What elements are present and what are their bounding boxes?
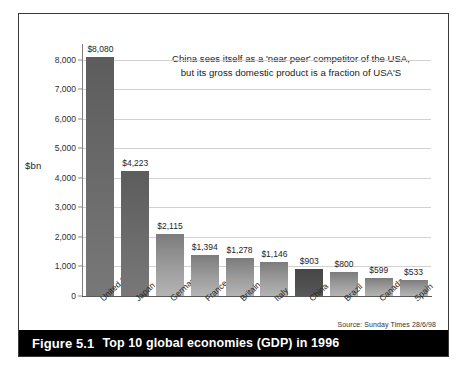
bar-slot: $1,394France — [191, 48, 219, 296]
y-axis-unit-label: $bn — [25, 160, 41, 171]
y-axis-tick-mark — [78, 236, 82, 237]
bar-japan[interactable] — [121, 171, 149, 296]
chart-area: $bn China sees itself as a 'near peer' c… — [19, 14, 448, 356]
bar-value-label: $903 — [300, 256, 319, 266]
y-axis-tick-label: 6,000 — [55, 114, 76, 124]
y-axis-tick-label: 8,000 — [55, 55, 76, 65]
y-axis-tick-mark — [78, 89, 82, 90]
y-axis-tick-label: 2,000 — [55, 232, 76, 242]
y-axis-tick-mark — [78, 296, 82, 297]
bar-series: $8,080United States$4,223Japan$2,115Germ… — [83, 48, 431, 296]
bar-value-label: $800 — [335, 259, 354, 269]
bar-value-label: $1,394 — [192, 242, 218, 252]
figure-caption-bar: Figure 5.1 Top 10 global economies (GDP)… — [19, 330, 448, 356]
bar-value-label: $1,278 — [227, 245, 253, 255]
bar-slot: $4,223Japan — [121, 48, 149, 296]
y-axis-tick-mark — [78, 59, 82, 60]
bar-value-label: $599 — [369, 265, 388, 275]
bar-slot: $2,115Germany — [156, 48, 184, 296]
y-axis-tick-mark — [78, 148, 82, 149]
figure-container: $bn China sees itself as a 'near peer' c… — [18, 13, 449, 357]
bar-slot: $599Canada — [365, 48, 393, 296]
bar-slot: $1,146Italy — [260, 48, 288, 296]
y-axis-tick-label: 7,000 — [55, 84, 76, 94]
bar-slot: $800Brazil — [330, 48, 358, 296]
plot-area: $8,080United States$4,223Japan$2,115Germ… — [83, 48, 431, 296]
y-axis-tick-mark — [78, 118, 82, 119]
bar-value-label: $533 — [404, 267, 423, 277]
bar-slot: $1,278Britain — [226, 48, 254, 296]
bar-slot: $533Spain — [400, 48, 428, 296]
caption-text: Top 10 global economies (GDP) in 1996 — [102, 336, 339, 350]
bar-slot: $903China — [295, 48, 323, 296]
source-note: Source: Sunday Times 28/6/98 — [337, 321, 436, 328]
bar-slot: $8,080United States — [86, 48, 114, 296]
y-axis-tick-label: 5,000 — [55, 143, 76, 153]
y-axis-tick-mark — [78, 177, 82, 178]
y-axis-tick-label: 4,000 — [55, 173, 76, 183]
caption-number: Figure 5.1 — [32, 336, 94, 351]
y-axis-tick-label: 0 — [71, 291, 76, 301]
y-axis-tick-mark — [78, 207, 82, 208]
y-axis-tick-mark — [78, 266, 82, 267]
y-axis-tick-label: 1,000 — [55, 261, 76, 271]
y-axis-tick-label: 3,000 — [55, 202, 76, 212]
bar-united-states[interactable] — [86, 57, 114, 296]
bar-value-label: $2,115 — [157, 221, 182, 231]
bar-value-label: $8,080 — [87, 44, 113, 54]
bar-value-label: $1,146 — [261, 249, 287, 259]
bar-value-label: $4,223 — [122, 158, 148, 168]
